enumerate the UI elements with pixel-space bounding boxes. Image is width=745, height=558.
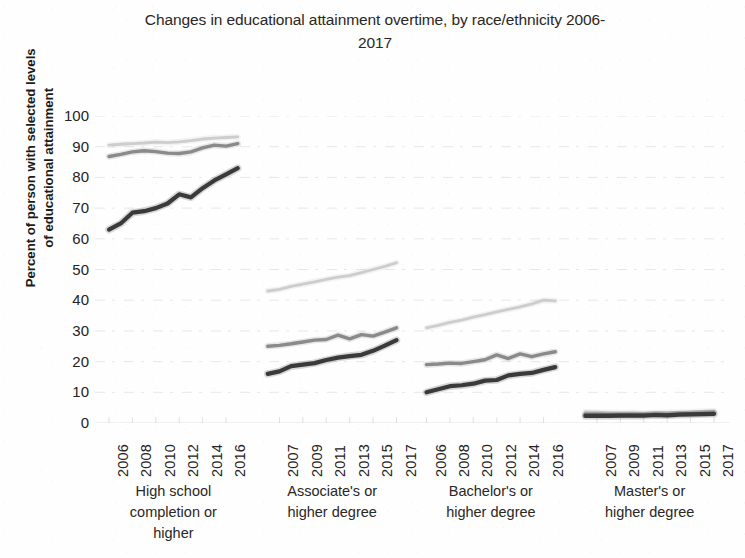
x-axis-tick-labels: 2006200820102012201420162007200920112013… [95,425,730,485]
group-caption-line: completion or [93,502,253,523]
y-tick-label: 10 [47,384,89,399]
x-tick-label: 2008 [456,444,472,477]
x-tick-label: 2010 [162,444,178,477]
x-tick-label: 2013 [356,444,372,477]
group-caption-line: Master's or [570,481,730,502]
group-caption-line: Associate's or [252,481,412,502]
group-caption: High schoolcompletion orhigher [93,481,253,544]
group-caption-line: Bachelor's or [411,481,571,502]
x-tick-label: 2017 [720,444,736,477]
group-caption-line: higher [93,523,253,544]
y-tick-label: 100 [47,108,89,123]
x-tick-label: 2012 [185,444,201,477]
series-line [268,263,397,291]
chart-figure: Changes in educational attainment overti… [0,0,745,558]
y-tick-label: 90 [47,139,89,154]
group-caption-line: higher degree [411,502,571,523]
x-tick-label: 2006 [115,444,131,477]
y-tick-label: 40 [47,292,89,307]
x-tick-label: 2016 [550,444,566,477]
y-tick-label: 80 [47,169,89,184]
x-tick-label: 2011 [650,445,666,477]
group-caption: Bachelor's orhigher degree [411,481,571,523]
y-tick-label: 20 [47,354,89,369]
y-tick-label: 70 [47,200,89,215]
x-tick-label: 2014 [526,444,542,477]
x-tick-label: 2007 [285,444,301,477]
plot-area [95,116,730,423]
x-tick-label: 2011 [332,445,348,477]
x-tick-label: 2014 [209,444,225,477]
y-tick-label: 0 [47,415,89,430]
y-axis-tick-labels: 1009080706050403020100 [45,116,89,423]
y-axis-title-line-1: Percent of person with selected levels [23,48,38,287]
x-tick-label: 2008 [138,444,154,477]
chart-title: Changes in educational attainment overti… [70,8,680,55]
group-caption: Master's orhigher degree [570,481,730,523]
group-captions: High schoolcompletion orhigherAssociate'… [95,481,730,556]
group-caption: Associate's orhigher degree [252,481,412,523]
group-caption-line: higher degree [252,502,412,523]
x-tick-label: 2013 [673,444,689,477]
x-tick-label: 2012 [503,444,519,477]
y-tick-label: 30 [47,323,89,338]
y-tick-label: 60 [47,231,89,246]
x-tick-label: 2009 [309,444,325,477]
group-caption-line: High school [93,481,253,502]
chart-title-line-2: 2017 [70,31,680,54]
x-tick-label: 2015 [697,444,713,477]
chart-canvas [95,116,730,423]
series-line [427,367,556,392]
x-tick-label: 2010 [479,444,495,477]
y-tick-label: 50 [47,262,89,277]
x-tick-label: 2015 [379,444,395,477]
series-line [585,414,714,416]
chart-title-line-1: Changes in educational attainment overti… [70,8,680,31]
x-tick-label: 2016 [232,444,248,477]
x-tick-label: 2017 [403,444,419,477]
x-tick-label: 2009 [626,444,642,477]
x-tick-label: 2007 [603,444,619,477]
group-caption-line: higher degree [570,502,730,523]
x-tick-label: 2006 [433,444,449,477]
